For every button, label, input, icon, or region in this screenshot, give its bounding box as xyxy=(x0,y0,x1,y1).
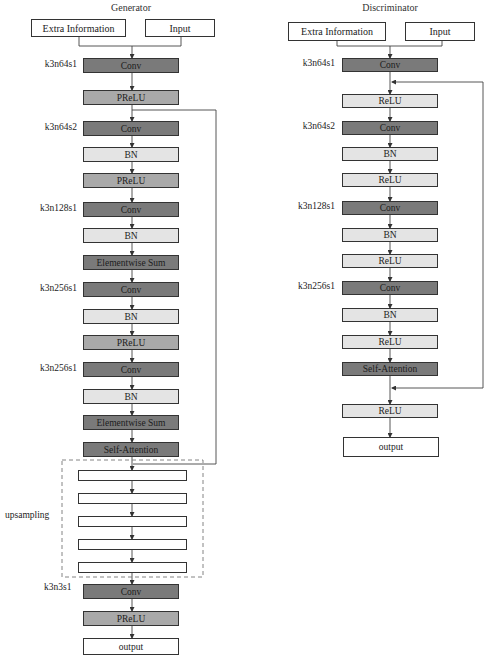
discriminator-conv-4: Conv xyxy=(342,281,438,295)
generator-elementwise-sum-1: Elementwise Sum xyxy=(83,255,179,270)
generator-extra-information-input: Extra Information xyxy=(31,19,126,37)
upsampling-block-2 xyxy=(78,493,187,504)
discriminator-annotation-conv-1: k3n64s1 xyxy=(265,58,335,68)
upsampling-block-4 xyxy=(78,539,187,550)
discriminator-bn-1: BN xyxy=(342,147,438,161)
generator-annotation-conv-3: k3n128s1 xyxy=(10,203,77,213)
generator-annotation-final-conv: k3n3s1 xyxy=(10,582,90,592)
discriminator-conv-1: Conv xyxy=(342,58,438,72)
generator-conv-2: Conv xyxy=(83,121,179,136)
discriminator-conv-3: Conv xyxy=(342,201,438,215)
generator-annotation-conv-5: k3n256s1 xyxy=(10,363,77,373)
discriminator-annotation-conv-3: k3n128s1 xyxy=(265,201,335,211)
generator-final-prelu: PReLU xyxy=(83,611,179,626)
generator-elementwise-sum-2: Elementwise Sum xyxy=(83,415,179,430)
discriminator-relu-4: ReLU xyxy=(342,335,438,349)
upsampling-block-5 xyxy=(78,562,187,573)
generator-bn-2: BN xyxy=(83,228,179,243)
upsampling-label: upsampling xyxy=(5,510,55,520)
discriminator-output: output xyxy=(343,437,439,457)
generator-conv-4: Conv xyxy=(83,282,179,297)
discriminator-bn-3: BN xyxy=(342,308,438,322)
generator-annotation-conv-4: k3n256s1 xyxy=(10,283,77,293)
generator-conv-3: Conv xyxy=(83,202,179,217)
generator-prelu-2: PReLU xyxy=(83,173,179,188)
generator-prelu-1: PReLU xyxy=(83,90,179,105)
discriminator-annotation-conv-4: k3n256s1 xyxy=(265,281,335,291)
discriminator-extra-information-input: Extra Information xyxy=(288,22,386,41)
generator-prelu-3: PReLU xyxy=(83,335,179,350)
discriminator-conv-2: Conv xyxy=(342,121,438,135)
generator-input: Input xyxy=(145,19,215,37)
discriminator-input: Input xyxy=(405,22,475,41)
generator-self-attention: Self-Attention xyxy=(83,442,179,457)
discriminator-relu-2: ReLU xyxy=(342,173,438,187)
discriminator-relu-5: ReLU xyxy=(342,404,438,418)
upsampling-block-1 xyxy=(78,470,187,481)
discriminator-annotation-conv-2: k3n64s2 xyxy=(265,121,335,131)
generator-output: output xyxy=(83,638,179,655)
generator-bn-1: BN xyxy=(83,147,179,162)
generator-final-conv: Conv xyxy=(83,584,179,599)
generator-bn-3: BN xyxy=(83,309,179,324)
generator-bn-4: BN xyxy=(83,389,179,404)
generator-conv-1: Conv xyxy=(83,58,179,73)
generator-conv-5: Conv xyxy=(83,362,179,377)
upsampling-block-3 xyxy=(78,516,187,527)
generator-annotation-conv-1: k3n64s1 xyxy=(10,59,77,69)
discriminator-bn-2: BN xyxy=(342,228,438,242)
discriminator-relu-3: ReLU xyxy=(342,254,438,268)
discriminator-relu-1: ReLU xyxy=(342,94,438,108)
generator-annotation-conv-2: k3n64s2 xyxy=(10,122,77,132)
discriminator-self-attention: Self-Attention xyxy=(342,362,438,376)
